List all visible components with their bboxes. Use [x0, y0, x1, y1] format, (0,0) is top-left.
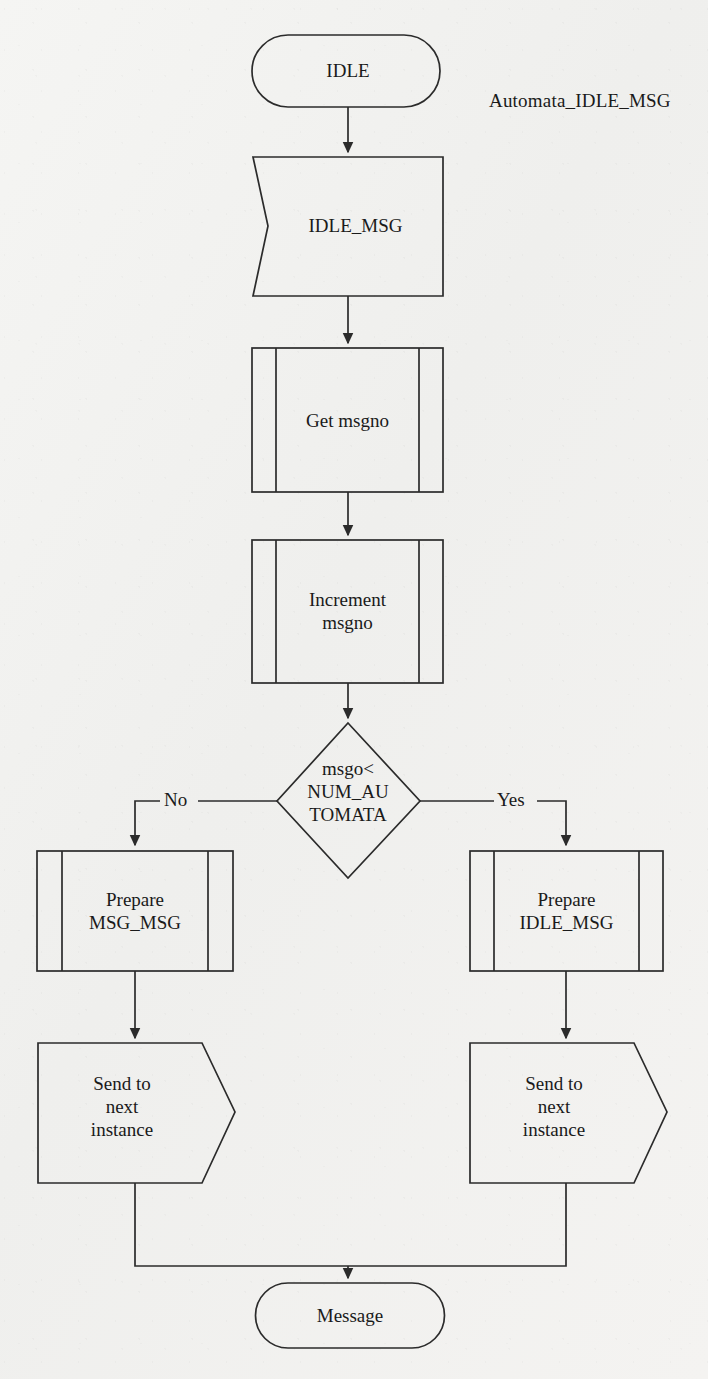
node-prepare-msg-msg-shape[interactable]	[37, 851, 233, 971]
node-increment-msgno-shape[interactable]	[252, 540, 443, 683]
node-idle-msg-shape[interactable]	[253, 157, 443, 296]
flowchart-canvas	[0, 0, 708, 1379]
node-send-left-shape[interactable]	[38, 1043, 235, 1183]
edge-no-to-prepare-msg-msg	[135, 801, 160, 845]
edge-label-yes: Yes	[497, 789, 525, 811]
edge-merge-rail	[135, 1183, 566, 1266]
diagram-title: Automata_IDLE_MSG	[489, 90, 671, 112]
node-idle-shape[interactable]	[252, 35, 440, 107]
node-get-msgno-shape[interactable]	[252, 348, 443, 492]
node-decision-shape[interactable]	[277, 723, 420, 878]
node-prepare-idle-msg-shape[interactable]	[470, 851, 663, 971]
edge-yes-to-prepare-idle-msg	[537, 801, 566, 845]
node-send-right-shape[interactable]	[470, 1043, 667, 1183]
edge-label-no: No	[164, 789, 187, 811]
node-message-shape[interactable]	[256, 1283, 445, 1348]
